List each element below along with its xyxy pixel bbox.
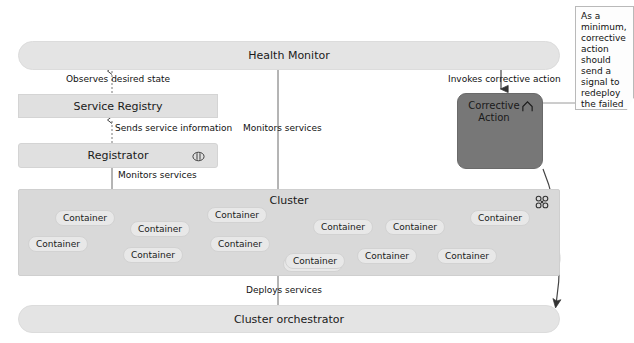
node-health-monitor-label: Health Monitor [248, 49, 329, 62]
note-callout: As a minimum, corrective action should s… [575, 6, 634, 110]
container-chip[interactable]: Container [313, 219, 373, 235]
node-cluster-label: Cluster [19, 194, 559, 207]
container-chip[interactable]: Container [385, 219, 445, 235]
container-chip[interactable]: Container [207, 207, 267, 223]
container-chip[interactable]: Container [123, 247, 183, 263]
container-chip[interactable]: Container [470, 210, 530, 226]
edge-label-observes-desired-state: Observes desired state [66, 74, 170, 84]
node-cluster-orchestrator[interactable]: Cluster orchestrator [18, 305, 560, 333]
container-chip[interactable]: Container [285, 253, 345, 269]
chevron-up-home-icon [521, 100, 534, 113]
node-corrective-action-label-line1: Corrective [468, 100, 519, 111]
container-chip[interactable]: Container [28, 236, 88, 252]
edge-label-monitors-services-health-monitor: Monitors services [243, 123, 322, 133]
node-cluster-orchestrator-label: Cluster orchestrator [234, 313, 344, 326]
cluster-nodes-icon [535, 195, 549, 209]
edge-label-deploys-services: Deploys services [246, 285, 322, 295]
note-text: As a minimum, corrective action should s… [581, 11, 627, 120]
container-chip[interactable]: Container [437, 248, 497, 264]
container-chip[interactable]: Container [55, 210, 115, 226]
node-corrective-action[interactable]: Corrective Action [457, 93, 543, 169]
node-corrective-action-label-line2: Action [478, 112, 509, 123]
edge-label-invokes-corrective-action: Invokes corrective action [448, 74, 561, 84]
container-chip[interactable]: Container [130, 221, 190, 237]
node-health-monitor[interactable]: Health Monitor [18, 41, 560, 70]
node-registrator[interactable]: Registrator [18, 143, 218, 168]
component-icon [192, 150, 205, 163]
node-service-registry-label: Service Registry [73, 100, 162, 113]
node-registrator-label: Registrator [88, 149, 149, 162]
diagram-canvas: Health Monitor Service Registry Registra… [0, 0, 634, 343]
edge-label-monitors-services-registrator: Monitors services [118, 170, 197, 180]
node-service-registry[interactable]: Service Registry [18, 94, 218, 118]
container-chip[interactable]: Container [357, 248, 417, 264]
container-chip[interactable]: Container [210, 236, 270, 252]
edge-label-sends-service-information: Sends service information [115, 123, 232, 133]
